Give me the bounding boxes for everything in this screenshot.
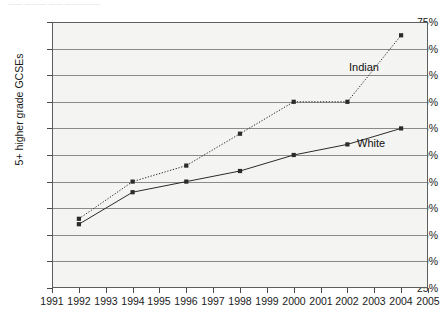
gridline (53, 182, 427, 183)
gridline (53, 128, 427, 129)
x-axis-tick (52, 288, 53, 293)
x-axis-tick (428, 288, 429, 293)
gridline (53, 208, 427, 209)
gridline (53, 75, 427, 76)
x-axis-tick (133, 288, 134, 293)
x-axis-tick (321, 288, 322, 293)
y-axis-label: 5+ higher grade GCSEs (14, 10, 25, 210)
series-label-indian: Indian (349, 62, 379, 73)
x-axis-tick-label: 2005 (408, 296, 444, 307)
gridline (53, 102, 427, 103)
gridline (53, 261, 427, 262)
x-axis-tick (159, 288, 160, 293)
x-axis-tick (401, 288, 402, 293)
gridline (53, 155, 427, 156)
gridline (53, 235, 427, 236)
x-axis-tick (347, 288, 348, 293)
x-axis-tick (267, 288, 268, 293)
x-axis-tick (213, 288, 214, 293)
x-axis-tick (106, 288, 107, 293)
gridline (53, 49, 427, 50)
x-axis-tick (79, 288, 80, 293)
x-axis-tick (294, 288, 295, 293)
series-label-white: White (357, 138, 385, 149)
x-axis-tick (374, 288, 375, 293)
x-axis-tick (186, 288, 187, 293)
x-axis-tick (240, 288, 241, 293)
